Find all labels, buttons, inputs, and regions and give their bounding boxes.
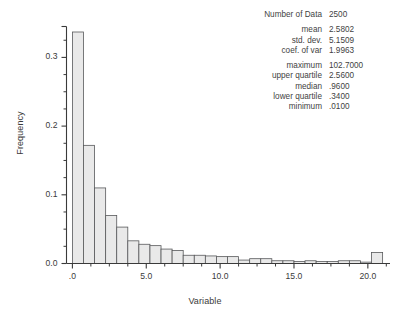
histogram-bar: [194, 255, 205, 263]
y-tick-label: 0.3: [24, 51, 58, 61]
x-tick-label: 5.0: [126, 271, 166, 281]
x-tick-label: .0: [52, 271, 92, 281]
y-tick-label: 0.0: [24, 258, 58, 268]
histogram-bar: [128, 241, 139, 264]
x-tick-label: 15.0: [274, 271, 314, 281]
y-tick-label: 0.2: [24, 120, 58, 130]
histogram-bar: [117, 227, 128, 263]
x-tick-label: 20.0: [348, 271, 388, 281]
histogram-bar: [216, 257, 227, 264]
y-axis-title: Frequency: [15, 93, 25, 173]
histogram-bar: [72, 32, 83, 264]
histogram-bar: [250, 259, 261, 264]
histogram-bar: [205, 256, 216, 264]
histogram-bar: [139, 244, 150, 263]
plot-area: Frequency Variable 0.00.10.20.3 .05.010.…: [0, 0, 410, 319]
x-tick-label: 10.0: [200, 271, 240, 281]
histogram-bar: [95, 188, 106, 264]
x-axis-title: Variable: [0, 296, 410, 306]
histogram-bar: [83, 145, 94, 263]
histogram-bar: [228, 257, 239, 264]
histogram-bar: [106, 215, 117, 263]
histogram-bar: [372, 253, 383, 264]
histogram-bars: [72, 32, 382, 264]
histogram-bar: [150, 246, 161, 264]
histogram-figure: Number of Data 2500 mean 2.5802 std. dev…: [0, 0, 410, 319]
histogram-bar: [261, 259, 272, 264]
histogram-bar: [172, 250, 183, 263]
histogram-bar: [161, 249, 172, 263]
histogram-bar: [183, 255, 194, 263]
y-tick-label: 0.1: [24, 189, 58, 199]
